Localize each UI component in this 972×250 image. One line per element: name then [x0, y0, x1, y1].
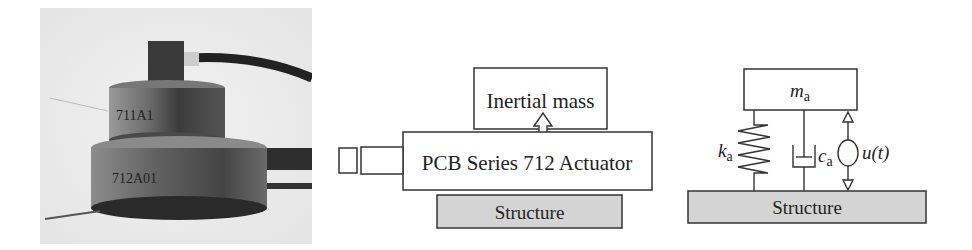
connector-icon [339, 147, 403, 174]
actuator-block: PCB Series 712 Actuator [403, 132, 652, 190]
spring-icon [738, 110, 770, 191]
structure-label: Structure [495, 202, 565, 223]
actuator-photo: 711A1 712A01 [40, 8, 312, 244]
inertial-mass-label: Inertial mass [487, 89, 595, 113]
model-structure-label: Structure [772, 197, 842, 218]
structure-block: Structure [437, 195, 622, 228]
force-source-icon [838, 112, 858, 190]
actuator-photo-image: 711A1 712A01 [40, 8, 312, 244]
model-structure-block: Structure [688, 191, 926, 223]
engraving-top: 711A1 [116, 108, 154, 123]
stiffness-label: ka [718, 140, 733, 164]
lumped-model-diagram: ma ka ca u(t) Structure [670, 0, 972, 250]
force-label: u(t) [862, 142, 889, 164]
actuator-schematic: Inertial mass PCB Series 712 Actuator St… [330, 0, 660, 250]
damper-icon [793, 110, 815, 191]
mass-block: ma [744, 69, 857, 110]
engraving-bottom: 712A01 [112, 171, 157, 186]
actuator-label: PCB Series 712 Actuator [422, 151, 633, 175]
damping-label: ca [818, 145, 833, 169]
